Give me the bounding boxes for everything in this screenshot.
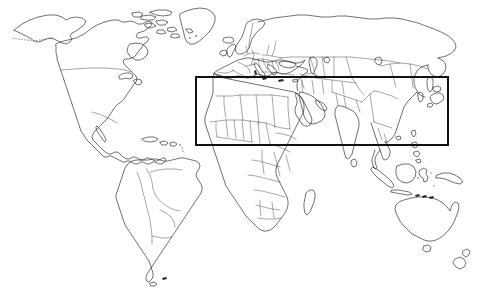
world-map-canvas <box>0 0 482 301</box>
world-map-figure <box>0 0 482 301</box>
map-background <box>0 0 482 301</box>
